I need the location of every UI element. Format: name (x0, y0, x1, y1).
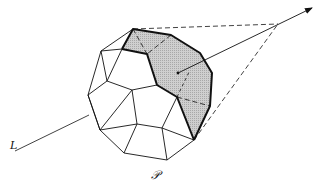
shaded-region (122, 29, 212, 140)
label-polytope-P: 𝒫 (151, 169, 160, 181)
polytope-diagram (0, 0, 318, 184)
label-line-L: L (10, 140, 17, 151)
direction-arrow (178, 8, 312, 73)
line-L (15, 115, 89, 151)
